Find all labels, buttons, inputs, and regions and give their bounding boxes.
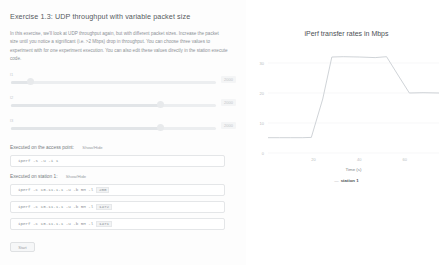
slider-1-knob[interactable] — [27, 78, 34, 85]
legend-marker-icon: — — [334, 178, 338, 183]
legend-item-station-1: station 1 — [341, 178, 359, 183]
station-label-text: Executed on station 1: — [10, 174, 57, 179]
chart-legend: —station 1 — [246, 178, 447, 183]
station-command-2-value[interactable]: 1472 — [96, 204, 112, 210]
station-command-1-value[interactable]: 200 — [96, 187, 110, 193]
access-point-exec-label: Executed on the access point: Show/Hide — [10, 145, 238, 150]
exercise-page: Exercise 1.3: UDP throughput with variab… — [0, 0, 447, 265]
access-point-show-hide-toggle[interactable]: Show/Hide — [82, 145, 102, 150]
station-command-1-prefix: iperf -c 10.11.1.1 -u -b 5M -l — [18, 188, 96, 192]
throughput-line-chart: 0102030204060Time (s) — [246, 42, 447, 177]
slider-2-label: l2 — [10, 95, 13, 100]
packet-size-slider-2[interactable]: l2 2000 — [10, 95, 238, 115]
svg-text:0: 0 — [262, 151, 265, 156]
svg-text:60: 60 — [403, 157, 408, 162]
station-command-3[interactable]: iperf -c 10.11.1.1 -u -b 5M -l 1471 — [10, 218, 225, 230]
slider-3-label: l3 — [10, 118, 13, 123]
svg-text:20: 20 — [260, 91, 265, 96]
access-point-command[interactable]: iperf -s -u -i 1 — [10, 155, 225, 167]
slider-1-track[interactable] — [11, 81, 216, 84]
station-command-3-prefix: iperf -c 10.11.1.1 -u -b 5M -l — [18, 222, 96, 226]
svg-text:20: 20 — [311, 157, 316, 162]
station-command-2[interactable]: iperf -c 10.11.1.1 -u -b 5M -l 1472 — [10, 201, 225, 213]
exercise-description: In this exercise, we'll look at UDP thro… — [10, 30, 228, 64]
slider-1-value: 2000 — [221, 76, 236, 83]
slider-2-value: 2000 — [221, 99, 236, 106]
svg-text:30: 30 — [260, 61, 265, 66]
slider-2-track[interactable] — [11, 104, 216, 107]
station-exec-label: Executed on station 1: Show/Hide — [10, 174, 238, 179]
slider-3-track[interactable] — [11, 127, 216, 130]
page-title: Exercise 1.3: UDP throughput with variab… — [10, 12, 238, 21]
slider-2-knob[interactable] — [157, 101, 164, 108]
station-show-hide-toggle[interactable]: Show/Hide — [66, 174, 86, 179]
svg-text:10: 10 — [260, 121, 265, 126]
access-point-label-text: Executed on the access point: — [10, 145, 74, 150]
chart-panel: iPerf transfer rates in Mbps 01020302040… — [246, 0, 447, 265]
packet-size-slider-3[interactable]: l3 2000 — [10, 118, 238, 138]
slider-3-value: 2000 — [221, 122, 236, 129]
station-command-1[interactable]: iperf -c 10.11.1.1 -u -b 5M -l 200 — [10, 184, 225, 196]
slider-1-label: l1 — [10, 72, 13, 77]
slider-3-knob[interactable] — [157, 124, 164, 131]
exercise-panel: Exercise 1.3: UDP throughput with variab… — [0, 0, 246, 265]
station-command-2-prefix: iperf -c 10.11.1.1 -u -b 5M -l — [18, 205, 96, 209]
chart-title: iPerf transfer rates in Mbps — [246, 30, 447, 37]
station-command-3-value[interactable]: 1471 — [96, 221, 112, 227]
svg-text:40: 40 — [357, 157, 362, 162]
start-button[interactable]: Start — [10, 242, 35, 252]
packet-size-slider-1[interactable]: l1 2000 — [10, 72, 238, 92]
svg-text:Time (s): Time (s) — [346, 167, 362, 172]
